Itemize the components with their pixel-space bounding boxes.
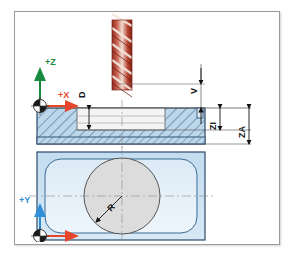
pocket-recess [77, 108, 165, 130]
end-mill-tool [112, 14, 132, 97]
y-axis-label: +Y [19, 195, 30, 205]
z-axis-label: +Z [45, 57, 56, 67]
diagram-frame: +Z +X D V ZI [14, 11, 280, 245]
technical-drawing: +Z +X D V ZI [15, 12, 277, 242]
plan-view: R [29, 146, 215, 242]
diagram-canvas: +Z +X D V ZI [0, 0, 294, 255]
dimension-za-label: ZA [237, 126, 247, 138]
x-axis-label: +X [58, 90, 69, 100]
dimension-za-group: ZA [237, 108, 249, 144]
dimension-zi-group: ZI [208, 108, 220, 130]
dimension-v-label: V [189, 88, 199, 94]
section-view [37, 100, 251, 152]
dimension-zi-label: ZI [208, 122, 218, 130]
axis-triad-section: +Z +X [31, 57, 77, 115]
dimension-d-label: D [77, 91, 87, 98]
